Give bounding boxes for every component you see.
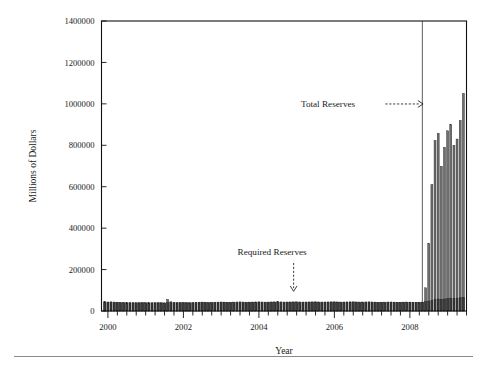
required-reserves-bar bbox=[437, 299, 439, 311]
required-reserves-bar bbox=[286, 302, 288, 311]
total-reserves-bar bbox=[450, 125, 452, 311]
required-reserves-bar bbox=[346, 302, 348, 311]
required-reserves-bar bbox=[164, 303, 166, 311]
required-reserves-bar bbox=[170, 303, 172, 311]
required-reserves-bar bbox=[406, 302, 408, 311]
required-reserves-bar bbox=[337, 302, 339, 311]
required-reserves-bar bbox=[223, 303, 225, 311]
x-tick-label: 2008 bbox=[401, 322, 418, 332]
annotation-required-reserves-label: Required Reserves bbox=[238, 247, 308, 257]
required-reserves-bar bbox=[456, 298, 458, 311]
y-tick-label: 800000 bbox=[69, 140, 95, 150]
required-reserves-bar bbox=[377, 303, 379, 311]
required-reserves-bar bbox=[428, 301, 430, 311]
required-reserves-bar bbox=[226, 303, 228, 311]
required-reserves-bar bbox=[440, 299, 442, 311]
required-reserves-bar bbox=[318, 302, 320, 311]
required-reserves-bar bbox=[305, 302, 307, 311]
required-reserves-bar bbox=[352, 302, 354, 311]
required-reserves-bar bbox=[371, 302, 373, 311]
y-tick-label: 400000 bbox=[69, 223, 95, 233]
required-reserves-bar bbox=[142, 303, 144, 311]
required-reserves-bar bbox=[431, 300, 433, 311]
required-reserves-bar bbox=[129, 303, 131, 311]
required-reserves-bar bbox=[349, 302, 351, 311]
required-reserves-bar bbox=[233, 303, 235, 311]
required-reserves-bar bbox=[179, 303, 181, 311]
required-reserves-bar bbox=[340, 302, 342, 311]
required-reserves-bar bbox=[132, 303, 134, 311]
required-reserves-bar bbox=[239, 302, 241, 311]
required-reserves-bar bbox=[409, 303, 411, 311]
required-reserves-bar bbox=[384, 303, 386, 311]
total-reserves-bar bbox=[447, 131, 449, 311]
required-reserves-bar bbox=[343, 302, 345, 311]
required-reserves-bar bbox=[135, 303, 137, 311]
required-reserves-bar bbox=[201, 303, 203, 311]
y-tick-label: 0 bbox=[90, 306, 94, 316]
required-reserves-bar bbox=[267, 303, 269, 311]
required-reserves-bar bbox=[390, 302, 392, 311]
required-reserves-bar bbox=[280, 302, 282, 311]
required-reserves-bar bbox=[248, 303, 250, 311]
required-reserves-bar bbox=[176, 303, 178, 311]
total-reserves-bar bbox=[453, 145, 455, 311]
required-reserves-bar bbox=[116, 303, 118, 311]
y-tick-label: 600000 bbox=[69, 182, 95, 192]
required-reserves-bar bbox=[126, 303, 128, 311]
required-reserves-bar bbox=[368, 302, 370, 311]
required-reserves-bar bbox=[270, 302, 272, 311]
required-reserves-bar bbox=[374, 303, 376, 311]
total-reserves-bar bbox=[437, 133, 439, 311]
total-reserves-bar bbox=[456, 139, 458, 311]
required-reserves-bar bbox=[425, 302, 427, 311]
required-reserves-bar bbox=[434, 300, 436, 311]
required-reserves-bar bbox=[293, 302, 295, 311]
required-reserves-bar bbox=[459, 298, 461, 311]
required-reserves-bar bbox=[418, 303, 420, 311]
x-axis-label: Year bbox=[275, 346, 293, 356]
required-reserves-bar bbox=[302, 302, 304, 311]
required-reserves-bar bbox=[355, 302, 357, 311]
y-tick-label: 1400000 bbox=[64, 16, 94, 26]
required-reserves-bar bbox=[333, 302, 335, 311]
required-reserves-bar bbox=[362, 302, 364, 311]
required-reserves-bar bbox=[274, 302, 276, 311]
required-reserves-bar bbox=[120, 303, 122, 311]
total-reserves-bar bbox=[440, 166, 442, 311]
required-reserves-bar bbox=[236, 303, 238, 311]
required-reserves-bar bbox=[195, 303, 197, 311]
reserves-bar-chart: 0200000400000600000800000100000012000001… bbox=[0, 0, 487, 370]
required-reserves-bar bbox=[151, 303, 153, 311]
y-tick-label: 1200000 bbox=[64, 58, 94, 68]
required-reserves-bar bbox=[283, 302, 285, 311]
required-reserves-bar bbox=[296, 302, 298, 311]
required-reserves-bar bbox=[245, 303, 247, 311]
required-reserves-bar bbox=[396, 303, 398, 311]
total-reserves-bar bbox=[431, 185, 433, 311]
required-reserves-bar bbox=[444, 299, 446, 311]
required-reserves-bar bbox=[324, 302, 326, 311]
required-reserves-bar bbox=[447, 299, 449, 311]
required-reserves-bar bbox=[365, 302, 367, 311]
total-reserves-bar bbox=[459, 120, 461, 311]
required-reserves-bar bbox=[220, 303, 222, 311]
required-reserves-bar bbox=[252, 303, 254, 311]
required-reserves-bar bbox=[113, 303, 115, 311]
required-reserves-bar bbox=[198, 303, 200, 311]
required-reserves-bar bbox=[182, 303, 184, 311]
required-reserves-bar bbox=[289, 302, 291, 311]
required-reserves-bar bbox=[412, 303, 414, 311]
required-reserves-bar bbox=[145, 303, 147, 311]
required-reserves-bar bbox=[450, 298, 452, 311]
required-reserves-bar bbox=[264, 303, 266, 311]
required-reserves-bar bbox=[148, 303, 150, 311]
required-reserves-bar bbox=[173, 303, 175, 311]
required-reserves-bar bbox=[107, 303, 109, 311]
required-reserves-bar bbox=[387, 302, 389, 311]
required-reserves-bar bbox=[160, 303, 162, 311]
required-reserves-bar bbox=[399, 303, 401, 311]
required-reserves-bar bbox=[393, 303, 395, 311]
required-reserves-bar bbox=[138, 303, 140, 311]
required-reserves-bar bbox=[327, 302, 329, 311]
